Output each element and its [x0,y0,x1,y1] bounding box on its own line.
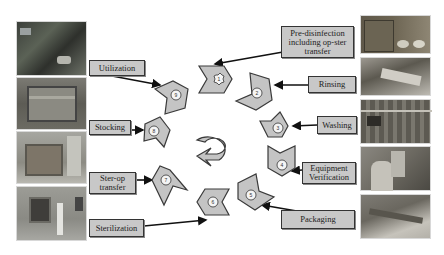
arrow-sterilization [144,220,206,226]
label-rinsing: Rinsing [308,76,356,93]
step-3-shape: 3 [260,112,288,137]
step-5-shape: 5 [238,174,274,210]
arrow-equipment [292,170,302,171]
arrow-predisinfection [215,52,283,64]
label-equipment-verification: Equipment Verification [302,162,356,184]
arrow-washing [293,125,317,126]
svg-text:4: 4 [281,162,284,168]
step-8-shape: 8 [144,117,170,147]
svg-text:1: 1 [218,76,221,82]
svg-text:5: 5 [250,192,253,198]
step-6-shape: 6 [197,189,229,215]
label-predisinfection: Pre-disinfection including op-ster trans… [281,26,354,58]
step-1-shape: 1 [199,66,232,93]
svg-text:7: 7 [165,177,168,183]
label-washing: Washing [317,116,357,134]
step-2-shape: 2 [236,73,272,110]
svg-text:3: 3 [277,125,280,131]
label-utilization: Utilization [89,60,145,76]
svg-text:6: 6 [212,199,215,205]
label-stocking: Stocking [89,120,131,135]
arrow-utilization [112,76,160,85]
cycle-diagram: 1 2 3 4 5 6 7 8 [0,0,444,255]
step-4-shape: 4 [268,146,295,176]
step-7-shape: 7 [152,166,187,205]
svg-text:8: 8 [153,128,156,134]
cycle-arrow-icon [197,137,225,166]
label-packaging: Packaging [281,210,355,229]
svg-text:9: 9 [175,92,178,98]
svg-text:2: 2 [256,90,259,96]
step-9-shape: 9 [155,81,188,114]
label-ster-op-transfer: Ster-op transfer [89,172,136,194]
label-sterilization: Sterilization [89,219,144,237]
